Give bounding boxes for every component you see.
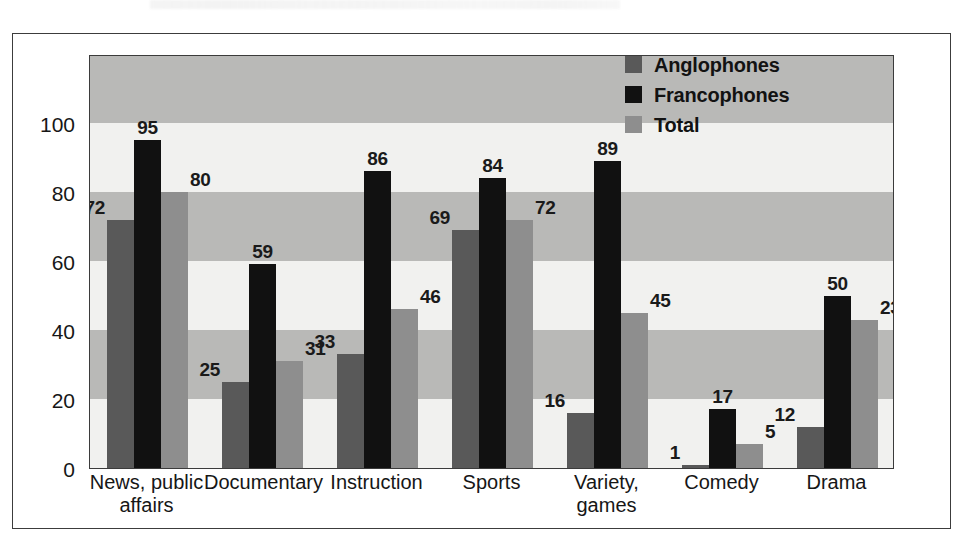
bar-anglophones-4: 69: [452, 56, 479, 468]
bar-rect: [452, 230, 479, 468]
y-tick-label: 100: [40, 114, 75, 135]
y-tick-label: 40: [52, 321, 75, 342]
bar-rect: [824, 296, 851, 469]
bar-francophones-7: 50: [824, 56, 851, 468]
legend-label: Francophones: [654, 85, 789, 105]
x-tick-label: Drama: [779, 471, 894, 494]
legend-swatch-anglophones-icon: [625, 56, 642, 73]
bar-value-label: 16: [544, 391, 565, 410]
x-tick-label: Variety, games: [549, 471, 664, 517]
bar-value-label: 45: [650, 291, 671, 310]
bar-total-7: 23: [851, 56, 878, 468]
bar-value-label: 59: [252, 242, 273, 261]
x-axis: News, public affairsDocumentaryInstructi…: [89, 471, 894, 527]
y-axis: 020406080100: [13, 55, 83, 469]
bar-rect: [594, 161, 621, 468]
x-tick-label: Comedy: [664, 471, 779, 494]
bar-rect: [107, 220, 134, 468]
bar-francophones-2: 59: [249, 56, 276, 468]
bar-rect: [364, 171, 391, 468]
bar-rect: [797, 427, 824, 468]
bar-value-label: 95: [137, 118, 158, 137]
y-tick-label: 20: [52, 390, 75, 411]
legend-item: Total: [625, 112, 789, 137]
bar-francophones-3: 86: [364, 56, 391, 468]
bar-total-4: 72: [506, 56, 533, 468]
bar-rect: [337, 354, 364, 468]
bar-rect: [222, 382, 249, 468]
x-tick-label: Sports: [434, 471, 549, 494]
scan-artifact-strip: [150, 0, 620, 9]
bar-value-label: 5: [765, 422, 775, 441]
bar-francophones-4: 84: [479, 56, 506, 468]
bar-rect: [736, 444, 763, 468]
x-tick-label: Instruction: [319, 471, 434, 494]
bar-value-label: 72: [535, 198, 556, 217]
bar-rect: [682, 465, 709, 468]
bar-value-label: 17: [712, 387, 733, 406]
bar-group: 125023: [797, 56, 878, 468]
bar-francophones-1: 95: [134, 56, 161, 468]
legend-label: Total: [654, 115, 699, 135]
bar-group: 338646: [337, 56, 418, 468]
bar-rect: [134, 140, 161, 468]
bar-rect: [249, 264, 276, 468]
bar-rect: [276, 361, 303, 468]
x-tick-label: News, public affairs: [89, 471, 204, 517]
bar-value-label: 69: [429, 208, 450, 227]
bar-total-3: 46: [391, 56, 418, 468]
legend-swatch-francophones-icon: [625, 86, 642, 103]
bar-value-label: 25: [199, 360, 220, 379]
x-tick-label: Documentary: [204, 471, 319, 494]
bar-total-2: 31: [276, 56, 303, 468]
bar-group: 729580: [107, 56, 188, 468]
bar-rect: [506, 220, 533, 468]
bar-value-label: 1: [670, 443, 680, 462]
bar-value-label: 23: [880, 298, 894, 317]
bar-value-label: 46: [420, 287, 441, 306]
bar-value-label: 12: [774, 405, 795, 424]
bar-rect: [479, 178, 506, 468]
bar-anglophones-2: 25: [222, 56, 249, 468]
y-tick-label: 80: [52, 183, 75, 204]
chart-legend: AnglophonesFrancophonesTotal: [625, 52, 789, 137]
bar-value-label: 72: [89, 198, 105, 217]
chart-figure-frame: 020406080100 729580255931338646698472168…: [12, 33, 951, 529]
bar-francophones-5: 89: [594, 56, 621, 468]
y-tick-label: 0: [63, 459, 75, 480]
bar-rect: [567, 413, 594, 468]
legend-item: Anglophones: [625, 52, 789, 77]
bar-rect: [391, 309, 418, 468]
legend-swatch-total-icon: [625, 116, 642, 133]
bar-value-label: 33: [314, 332, 335, 351]
bar-rect: [851, 320, 878, 468]
bar-value-label: 89: [597, 139, 618, 158]
bar-value-label: 84: [482, 156, 503, 175]
bar-group: 255931: [222, 56, 303, 468]
bar-rect: [161, 192, 188, 468]
bar-rect: [709, 409, 736, 468]
bar-anglophones-3: 33: [337, 56, 364, 468]
bar-anglophones-1: 72: [107, 56, 134, 468]
bar-anglophones-5: 16: [567, 56, 594, 468]
bar-value-label: 50: [827, 274, 848, 293]
y-tick-label: 60: [52, 252, 75, 273]
bar-anglophones-7: 12: [797, 56, 824, 468]
legend-label: Anglophones: [654, 55, 780, 75]
bar-rect: [621, 313, 648, 468]
legend-item: Francophones: [625, 82, 789, 107]
bar-value-label: 86: [367, 149, 388, 168]
bar-group: 698472: [452, 56, 533, 468]
bar-value-label: 80: [190, 170, 211, 189]
bar-total-1: 80: [161, 56, 188, 468]
